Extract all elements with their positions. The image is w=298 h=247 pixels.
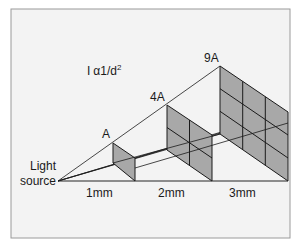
light-source-label-line1: Light <box>30 159 57 173</box>
light-source-label-line2: source <box>20 174 56 188</box>
distance-label-2mm: 2mm <box>158 186 185 200</box>
distance-label-3mm: 3mm <box>229 186 256 200</box>
panel-9a-label: 9A <box>204 51 219 65</box>
distance-label-1mm: 1mm <box>86 186 113 200</box>
inverse-square-law-diagram: Iα1/d2 A 4A 9A Light source 1mm 2mm 3 <box>0 0 298 247</box>
panel-4a-label: 4A <box>150 90 165 104</box>
panel-a-label: A <box>102 127 110 141</box>
